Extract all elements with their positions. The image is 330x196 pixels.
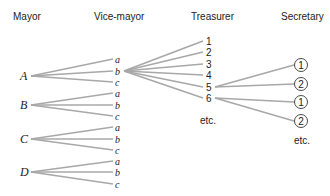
mayor-to-vice-branch	[31, 172, 113, 184]
mayor-to-vice-branch	[31, 105, 113, 116]
vice-mayor-node-b: b	[115, 167, 120, 178]
vice-mayor-node-b: b	[115, 134, 120, 145]
treasurer-etc-label: etc.	[200, 115, 216, 126]
vice-mayor-node-a: a	[115, 54, 120, 65]
mayor-to-vice-branch	[31, 93, 113, 105]
header-treasurer: Treasurer	[191, 11, 235, 22]
treasurer-node-2: 2	[206, 47, 212, 58]
vice-mayor-node-c: c	[115, 111, 120, 122]
secretary-node-1: 1	[298, 60, 304, 71]
secretary-node-2: 2	[298, 79, 304, 90]
treasurer-node-5: 5	[206, 82, 212, 93]
branch-lines	[31, 41, 294, 184]
treasurer-node-6: 6	[206, 93, 212, 104]
vice-mayor-node-c: c	[115, 77, 120, 88]
mayor-node-d: D	[19, 165, 29, 179]
vice-mayor-node-c: c	[115, 179, 120, 190]
vice-mayor-node-a: a	[115, 88, 120, 99]
mayor-to-vice-branch	[31, 127, 113, 139]
treasurer-node-3: 3	[206, 59, 212, 70]
mayor-node-a: A	[19, 69, 28, 83]
treasurer-node-4: 4	[206, 70, 212, 81]
officer-selection-tree-diagram: Mayor Vice-mayor Treasurer Secretary Aab…	[0, 0, 330, 196]
vice-mayor-node-b: b	[115, 66, 120, 77]
vice-mayor-node-a: a	[115, 122, 120, 133]
secretary-etc-label: etc.	[294, 135, 310, 146]
header-mayor: Mayor	[13, 11, 41, 22]
header-secretary: Secretary	[281, 11, 324, 22]
treasurer-node-1: 1	[206, 36, 212, 47]
mayor-node-c: C	[20, 132, 29, 146]
vice-mayor-node-c: c	[115, 145, 120, 156]
vice-mayor-node-b: b	[115, 100, 120, 111]
vice-to-treasurer-branch	[124, 41, 203, 71]
mayor-to-vice-branch	[31, 161, 113, 172]
vice-mayor-node-a: a	[115, 156, 120, 167]
header-vice-mayor: Vice-mayor	[94, 11, 145, 22]
secretary-node-2: 2	[298, 116, 304, 127]
mayor-to-vice-branch	[31, 76, 113, 82]
mayor-to-vice-branch	[31, 139, 113, 150]
tree-canvas: Mayor Vice-mayor Treasurer Secretary Aab…	[0, 0, 330, 196]
mayor-node-b: B	[20, 98, 28, 112]
secretary-node-1: 1	[298, 97, 304, 108]
